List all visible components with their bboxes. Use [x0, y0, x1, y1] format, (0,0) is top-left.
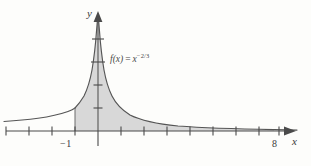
shaded-region-left: [75, 18, 98, 131]
improper-integral-figure: y x −1 8 f(x)=x−2/3: [0, 0, 311, 166]
x-tick-label-eight: 8: [272, 139, 277, 149]
function-exponent: −2/3: [137, 52, 150, 59]
y-axis-arrowhead: [94, 11, 103, 22]
x-tick-label-minus-one: −1: [60, 139, 72, 149]
curve-left-tail: [4, 108, 75, 122]
equals-sign: =: [123, 54, 132, 64]
function-equation-label: f(x)=x−2/3: [110, 53, 150, 65]
shaded-region-right: [98, 18, 274, 131]
function-name: f(x): [110, 54, 123, 64]
curve-right-branch: [98, 18, 297, 130]
y-axis-label: y: [87, 8, 92, 19]
x-axis-label: x: [292, 136, 297, 147]
graph-canvas: [0, 0, 311, 166]
